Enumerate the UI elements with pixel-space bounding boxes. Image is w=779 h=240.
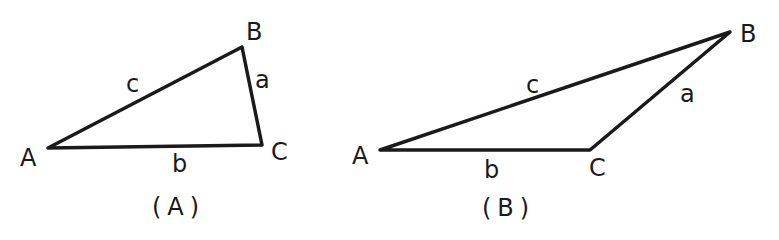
side-label-b-b: b [484, 156, 499, 184]
side-label-a-b: b [172, 150, 187, 178]
vertex-label-b-C: C [589, 154, 606, 182]
vertex-label-a-A: A [20, 144, 37, 172]
vertex-label-b-B: B [740, 20, 756, 48]
vertex-label-a-B: B [246, 18, 262, 46]
side-label-b-a: a [680, 80, 695, 108]
side-label-b-c: c [526, 71, 539, 99]
figure-b: A B C c a b (B) [352, 20, 756, 222]
triangle-b-outline [380, 32, 730, 150]
vertex-label-b-A: A [352, 142, 369, 170]
side-label-a-c: c [126, 70, 139, 98]
figure-caption-a: (A) [152, 193, 205, 221]
diagram-svg: A B C c a b (A) A B C c a b (B) [0, 0, 779, 240]
figure-caption-b: (B) [482, 194, 535, 222]
vertex-label-a-C: C [271, 138, 288, 166]
figure-a: A B C c a b (A) [20, 18, 288, 221]
triangle-diagram: A B C c a b (A) A B C c a b (B) [0, 0, 779, 240]
side-label-a-a: a [255, 66, 270, 94]
triangle-a-outline [48, 47, 262, 148]
